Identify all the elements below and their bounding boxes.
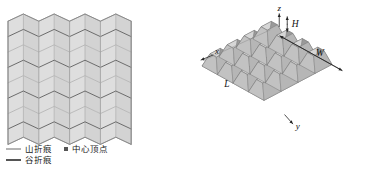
length-label: L [223,79,229,89]
legend: 山折痕 谷折痕 中心顶点 [6,143,146,173]
mountain-fold-line-icon [6,148,21,150]
height-arrow-up-head [286,17,289,20]
legend-label-center-vertex: 中心顶点 [72,144,108,154]
folded-cells [202,21,332,100]
cell-left-facet [202,54,218,75]
legend-item-valley: 谷折痕 [6,154,52,165]
width-label: W [316,48,325,58]
legend-label-valley: 谷折痕 [25,155,52,165]
folded-model-panel: xyzHWL [186,0,372,177]
z-axis-label: z [276,3,281,13]
z-axis-arrow-head [278,14,281,17]
crease-pattern-panel: 山折痕 谷折痕 中心顶点 [0,0,186,177]
center-vertex-dot-icon [64,147,68,151]
y-axis-label: y [295,121,300,131]
valley-fold-line-icon [6,159,21,161]
folded-model-diagram: xyzHWL [186,0,372,177]
legend-item-center-vertex: 中心顶点 [63,143,108,154]
origami-figure: 山折痕 谷折痕 中心顶点 xyzHWL [0,0,372,177]
legend-item-mountain: 山折痕 [6,143,52,154]
height-label: H [291,19,300,29]
crease-pattern-diagram [0,0,186,140]
legend-label-mountain: 山折痕 [25,144,52,154]
